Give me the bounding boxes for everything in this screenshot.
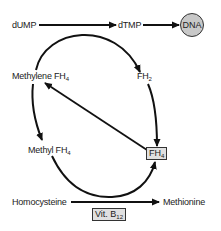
node-methionine: Methionine	[163, 197, 205, 207]
arrow-fh4-to-methylene	[45, 83, 147, 150]
node-dump: dUMP	[12, 20, 36, 30]
node-homocysteine: Homocysteine	[12, 197, 67, 207]
arrow-methylene-to-methyl	[32, 84, 42, 140]
node-dtmp: dTMP	[118, 20, 141, 30]
arrow-fh2-to-fh4	[148, 84, 157, 146]
arrow-methyl-to-fh4	[52, 156, 155, 197]
cofactor-vitb12: Vit. B12	[92, 208, 126, 221]
node-fh2: FH2	[137, 71, 152, 81]
node-methylene-fh4: Methylene FH4	[12, 71, 69, 81]
node-methyl-fh4: Methyl FH4	[28, 145, 70, 155]
node-fh4: FH4	[146, 147, 167, 160]
node-dna-label: DNA	[180, 20, 204, 30]
arrow-methylene-to-fh2	[36, 35, 140, 72]
